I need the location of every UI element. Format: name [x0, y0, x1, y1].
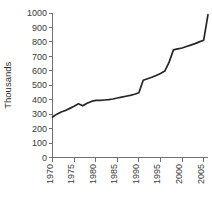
x-tick-label: 2000: [174, 164, 184, 184]
y-tick-label: 200: [32, 124, 47, 134]
x-tick-label: 1970: [45, 164, 55, 184]
y-tick-label: 600: [32, 66, 47, 76]
chart-canvas: 0100200300400500600700800900100019701975…: [0, 0, 212, 197]
y-tick-label: 500: [32, 80, 47, 90]
y-tick-label: 100: [32, 138, 47, 148]
y-tick-label: 800: [32, 37, 47, 47]
x-tick-label: 1975: [66, 164, 76, 184]
y-tick-label: 0: [42, 153, 47, 163]
x-tick-label: 1990: [131, 164, 141, 184]
y-tick-label: 300: [32, 109, 47, 119]
line-chart-figure: 0100200300400500600700800900100019701975…: [0, 0, 212, 197]
y-tick-label: 900: [32, 23, 47, 33]
data-series-line: [53, 15, 209, 117]
y-tick-label: 400: [32, 95, 47, 105]
y-tick-label: 700: [32, 52, 47, 62]
x-tick-label: 1995: [152, 164, 162, 184]
x-tick-label: 1985: [109, 164, 119, 184]
x-tick-label: 1980: [88, 164, 98, 184]
y-tick-label: 1000: [27, 8, 47, 18]
y-axis-title: Thousands: [2, 62, 13, 109]
x-tick-label: 2005: [196, 164, 206, 184]
